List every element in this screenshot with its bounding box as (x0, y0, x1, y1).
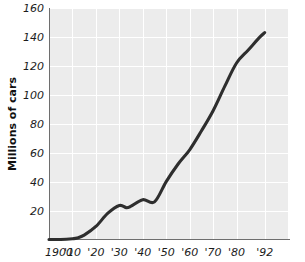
y-tick-label: 160 (23, 2, 44, 15)
x-tick-label: '60 (181, 246, 198, 259)
line-chart: 20406080100120140160 1900'10'20'30'40'50… (0, 0, 305, 262)
y-tick-label: 120 (23, 60, 44, 73)
x-tick-label: '30 (111, 246, 128, 259)
x-tick-label: '50 (158, 246, 175, 259)
x-tick-label: '20 (87, 246, 104, 259)
y-tick-label: 140 (23, 31, 44, 44)
x-tick-label: '92 (256, 246, 273, 259)
y-axis-title: Millions of cars (6, 77, 19, 171)
y-axis-tick-labels: 20406080100120140160 (23, 2, 44, 218)
y-tick-label: 60 (30, 147, 44, 160)
x-axis-tick-labels: 1900'10'20'30'40'50'60'70'80'92 (45, 246, 273, 259)
y-tick-label: 100 (23, 89, 44, 102)
y-tick-label: 80 (30, 118, 44, 131)
x-tick-label: '70 (205, 246, 222, 259)
y-tick-label: 20 (30, 205, 44, 218)
chart-canvas: 20406080100120140160 1900'10'20'30'40'50… (0, 0, 305, 262)
x-tick-label: '10 (64, 246, 81, 259)
y-tick-label: 40 (30, 176, 44, 189)
x-tick-label: '80 (228, 246, 245, 259)
x-tick-label: '40 (134, 246, 151, 259)
